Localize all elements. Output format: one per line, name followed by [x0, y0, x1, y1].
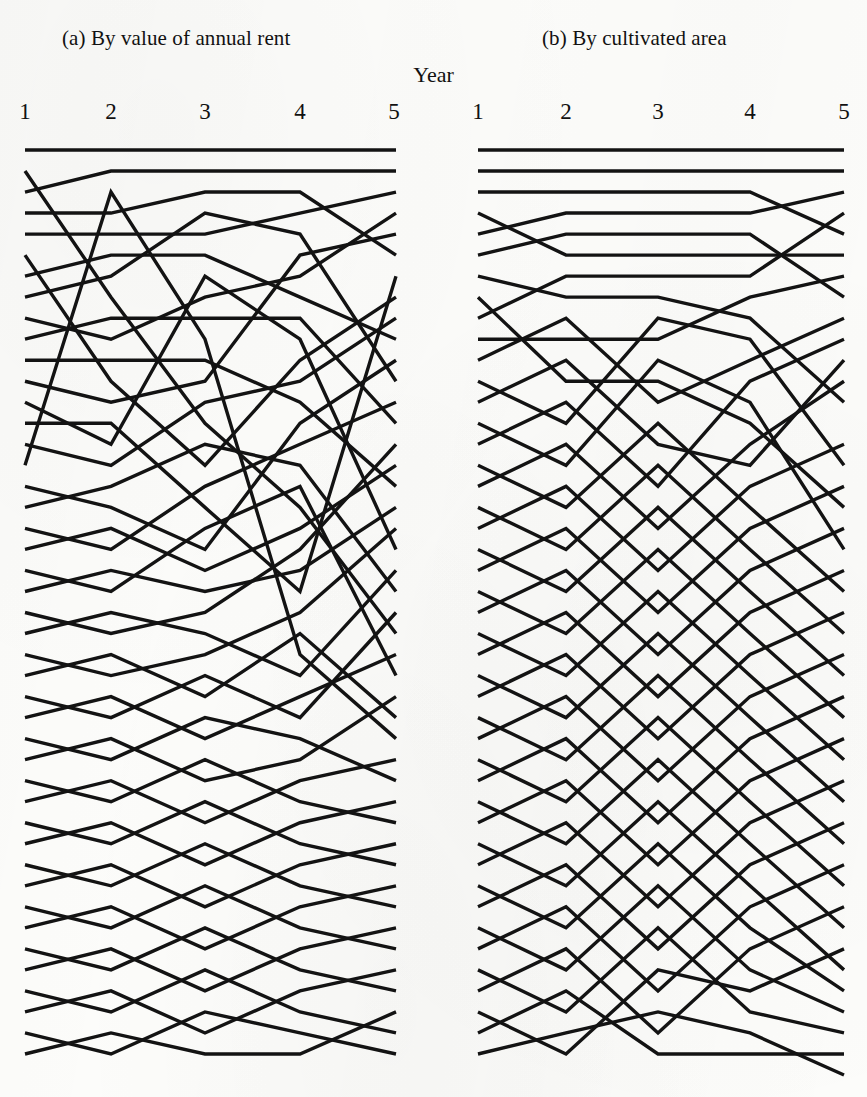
x-axis-title: Year	[0, 64, 867, 86]
figure-page: (a) By value of annual rent (b) By culti…	[0, 0, 867, 1097]
trajectory-line	[25, 528, 396, 675]
panel-a-title: (a) By value of annual rent	[62, 28, 290, 49]
panel-b-tick-2: 2	[553, 100, 579, 123]
trajectory-line	[478, 928, 844, 1033]
trajectory-line	[25, 318, 396, 465]
panel-b-lines	[447, 140, 867, 1085]
panel-a-plot	[0, 140, 420, 1085]
trajectory-line	[478, 192, 844, 234]
trajectory-line	[478, 360, 844, 549]
trajectory-line	[25, 444, 396, 633]
trajectory-line	[478, 381, 844, 528]
panel-b-tick-5: 5	[831, 100, 857, 123]
trajectory-line	[25, 570, 396, 675]
panel-b-tick-4: 4	[737, 100, 763, 123]
panel-a-lines	[0, 140, 420, 1085]
trajectory-line	[478, 213, 844, 318]
trajectory-line	[25, 613, 396, 718]
trajectory-line	[478, 276, 844, 339]
panel-b-tick-1: 1	[465, 100, 491, 123]
trajectory-line	[25, 1012, 396, 1054]
panel-a-tick-4: 4	[287, 100, 313, 123]
trajectory-line	[25, 171, 396, 192]
panel-b-plot	[447, 140, 867, 1085]
trajectory-line	[478, 991, 844, 1054]
panel-a-tick-2: 2	[98, 100, 124, 123]
panel-a-tick-5: 5	[381, 100, 407, 123]
panel-b-tick-3: 3	[645, 100, 671, 123]
panel-a-tick-1: 1	[12, 100, 38, 123]
panel-b-title: (b) By cultivated area	[542, 28, 727, 49]
panel-a-tick-3: 3	[192, 100, 218, 123]
trajectory-line	[25, 486, 396, 675]
trajectory-line	[25, 192, 396, 739]
